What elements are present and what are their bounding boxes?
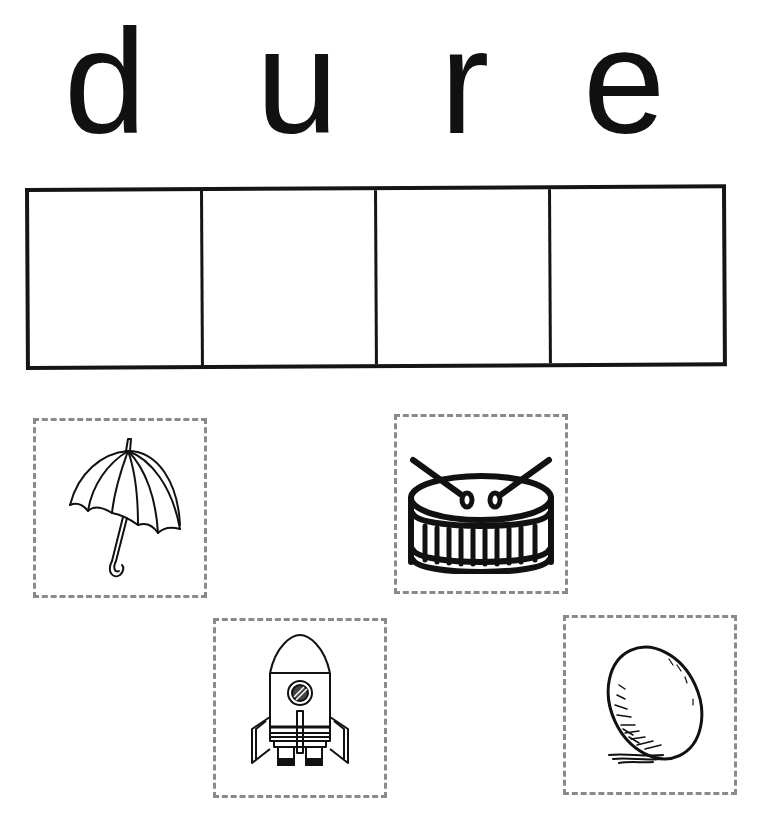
picture-card-umbrella[interactable] [33,418,207,598]
picture-card-rocket[interactable] [213,618,387,798]
answer-box-2[interactable] [203,190,378,365]
letter-d[interactable]: d [64,8,146,156]
answer-boxes [25,184,727,370]
letter-r[interactable]: r [440,8,489,156]
answer-box-4[interactable] [551,188,723,363]
rocket-icon [240,633,360,783]
answer-box-3[interactable] [377,189,552,364]
picture-card-drum[interactable] [394,414,568,594]
egg-icon [585,635,715,775]
letter-e[interactable]: e [583,8,665,156]
picture-card-egg[interactable] [563,615,737,795]
drum-icon [401,434,561,574]
answer-box-1[interactable] [29,191,204,366]
umbrella-icon [50,433,190,583]
letter-u[interactable]: u [256,8,338,156]
